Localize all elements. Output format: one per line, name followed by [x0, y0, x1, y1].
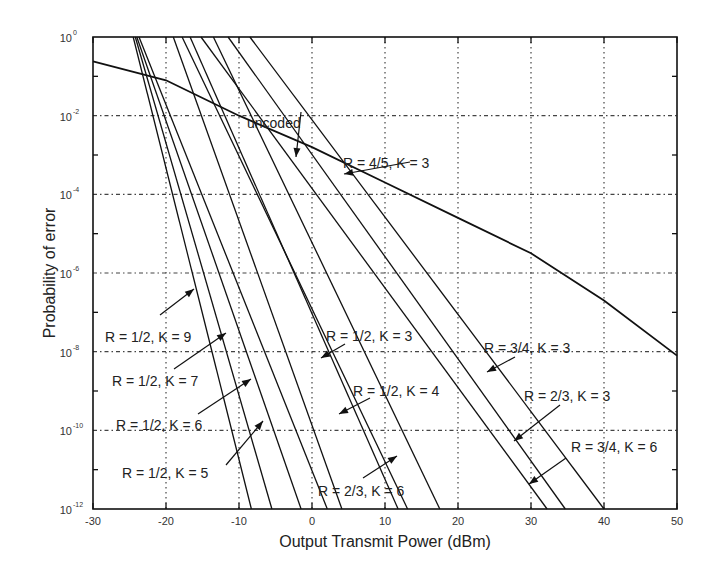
arrowhead-icon	[242, 379, 251, 387]
series-label: R = 1/2, K = 9	[105, 329, 192, 345]
coded-curve	[135, 37, 272, 509]
y-tick-exponent: -12	[73, 501, 83, 508]
arrowhead-icon	[339, 407, 349, 414]
y-tick-label: 10	[60, 425, 72, 437]
arrowhead-icon	[185, 289, 194, 297]
x-tick-label: 10	[379, 515, 391, 527]
y-tick-exponent: 0	[73, 29, 77, 36]
arrowhead-icon	[487, 365, 497, 372]
x-tick-label: 50	[671, 515, 683, 527]
series-label: R = 1/2, K = 5	[122, 465, 209, 481]
y-tick-exponent: -2	[73, 108, 79, 115]
error-probability-chart: -30-20-1001020304050 10010-210-410-610-8…	[0, 0, 714, 576]
y-tick-label: 10	[60, 268, 72, 280]
x-tick-labels: -30-20-1001020304050	[85, 515, 683, 527]
series-label: R = 1/2, K = 4	[353, 383, 440, 399]
arrowhead-icon	[217, 333, 226, 341]
coded-curve	[137, 37, 301, 509]
series-label: R = 4/5, K = 3	[343, 155, 430, 171]
series-label: R = 1/2, K = 7	[112, 373, 199, 389]
arrowhead-icon	[388, 456, 397, 464]
series-label: R = 2/3, K = 3	[524, 388, 611, 404]
y-tick-label: 10	[60, 189, 72, 201]
x-tick-label: 30	[525, 515, 537, 527]
y-tick-exponent: -6	[73, 265, 79, 272]
series-label: R = 3/4, K = 3	[484, 340, 571, 356]
y-tick-exponent: -10	[73, 422, 83, 429]
x-tick-label: 20	[452, 515, 464, 527]
x-tick-label: -20	[158, 515, 174, 527]
arrowhead-icon	[514, 433, 523, 441]
series-label: R = 2/3, K = 6	[318, 483, 405, 499]
y-tick-label: 10	[60, 111, 72, 123]
y-axis-title: Probability of error	[41, 207, 58, 338]
x-axis-title: Output Transmit Power (dBm)	[279, 533, 491, 550]
series-annotations: uncodedR = 4/5, K = 3R = 1/2, K = 9R = 1…	[105, 115, 658, 499]
y-tick-label: 10	[60, 504, 72, 516]
series-label: R = 1/2, K = 6	[116, 417, 203, 433]
series-label: R = 3/4, K = 6	[571, 439, 658, 455]
y-tick-exponent: -8	[73, 344, 79, 351]
x-tick-label: 0	[309, 515, 315, 527]
y-tick-labels: 10010-210-410-610-810-1010-12	[60, 29, 83, 516]
series-label: R = 1/2, K = 3	[326, 328, 413, 344]
x-tick-label: -10	[231, 515, 247, 527]
y-tick-label: 10	[60, 32, 72, 44]
y-tick-label: 10	[60, 347, 72, 359]
x-tick-label: -30	[85, 515, 101, 527]
arrowhead-icon	[294, 148, 301, 157]
y-tick-exponent: -4	[73, 186, 79, 193]
series-label: uncoded	[247, 115, 301, 131]
x-tick-label: 40	[598, 515, 610, 527]
